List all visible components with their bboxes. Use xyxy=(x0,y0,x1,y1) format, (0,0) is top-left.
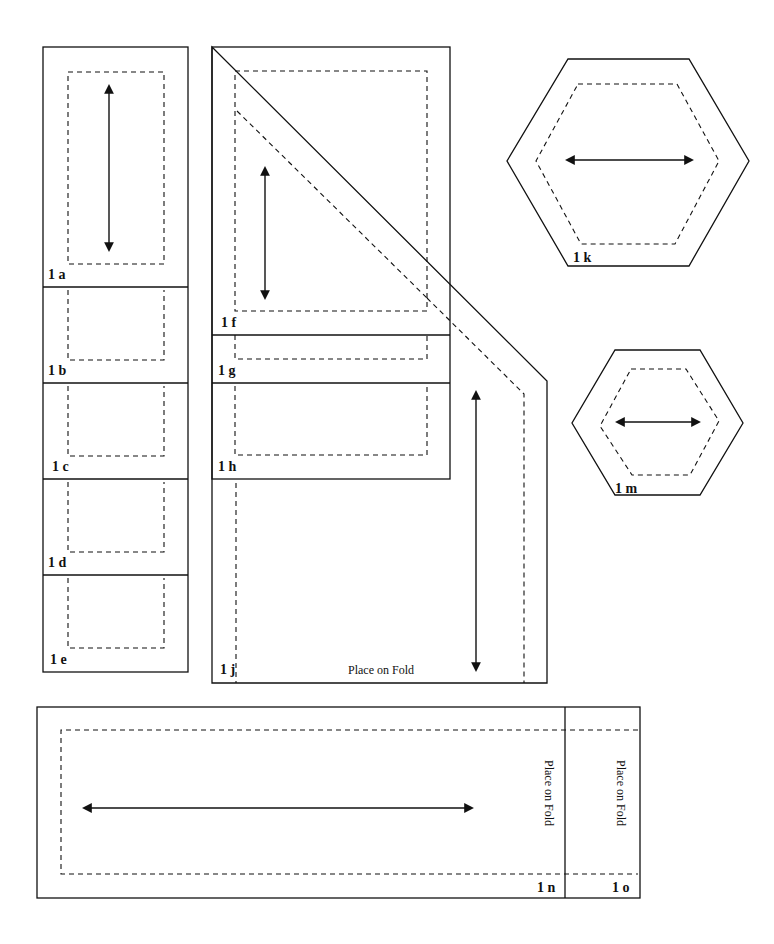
piece-1k: 1 k xyxy=(507,59,749,266)
piece-1n: Place on Fold 1 n xyxy=(61,730,638,895)
piece-label: 1 b xyxy=(48,363,67,378)
piece-1j: 1 j Place on Fold xyxy=(220,298,524,683)
piece-1g: 1 g xyxy=(218,335,427,378)
piece-label: 1 m xyxy=(615,481,638,496)
piece-label: 1 n xyxy=(537,880,556,895)
piece-label: 1 d xyxy=(48,555,67,570)
piece-1d: 1 d xyxy=(48,482,164,570)
place-on-fold-label: Place on Fold xyxy=(614,760,628,826)
piece-1c: 1 c xyxy=(52,386,164,474)
piece-column-middle: 1 f 1 g 1 h 1 j Place on Fold xyxy=(212,47,547,683)
place-on-fold-label: Place on Fold xyxy=(542,760,556,826)
piece-label: 1 k xyxy=(573,250,592,265)
piece-1f: 1 f xyxy=(221,71,427,330)
piece-1o: Place on Fold 1 o xyxy=(612,760,630,895)
piece-1h: 1 h xyxy=(218,386,427,474)
piece-label: 1 e xyxy=(50,652,67,667)
piece-1e: 1 e xyxy=(50,578,164,667)
piece-column-left: 1 a 1 b 1 c 1 d 1 e xyxy=(43,47,188,672)
piece-1b: 1 b xyxy=(48,290,164,378)
piece-label: 1 c xyxy=(52,459,69,474)
piece-strip-bottom: Place on Fold 1 n Place on Fold 1 o xyxy=(37,707,640,898)
place-on-fold-label: Place on Fold xyxy=(348,663,414,677)
piece-label: 1 j xyxy=(220,662,235,677)
piece-1a: 1 a xyxy=(48,72,164,282)
piece-label: 1 a xyxy=(48,267,66,282)
piece-label: 1 h xyxy=(218,459,237,474)
piece-label: 1 o xyxy=(612,880,630,895)
pattern-sheet: 1 a 1 b 1 c 1 d 1 e 1 f xyxy=(0,0,774,944)
piece-label: 1 f xyxy=(221,315,237,330)
piece-1m: 1 m xyxy=(572,350,743,496)
piece-label: 1 g xyxy=(218,363,236,378)
